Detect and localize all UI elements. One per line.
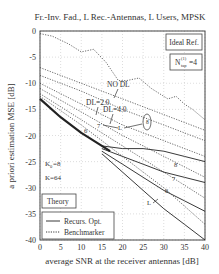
chart-figure: Fr.-Inv. Fad., L Rec.-Antennas, L Users,… <box>0 0 219 274</box>
svg-text:Theory: Theory <box>47 197 69 206</box>
svg-text:25: 25 <box>139 243 147 252</box>
svg-text:-15: -15 <box>25 105 36 114</box>
svg-text:6: 6 <box>84 127 88 134</box>
svg-text:10: 10 <box>77 243 85 252</box>
svg-text:-20: -20 <box>25 132 36 141</box>
chart-title: Fr.-Inv. Fad., L Rec.-Antennas, L Users,… <box>35 12 206 22</box>
ntap-box: N (1) tap =4 <box>170 54 202 70</box>
svg-text:-25: -25 <box>25 158 36 167</box>
k-label: K=64 <box>45 174 62 182</box>
svg-text:0: 0 <box>32 27 36 36</box>
dl4-label: DL=4.0 <box>103 105 127 114</box>
legend: Recurs. Opt. Benchmarker <box>42 212 114 239</box>
svg-text:=4: =4 <box>189 58 197 67</box>
svg-text:L: L <box>147 199 151 206</box>
svg-text:-10: -10 <box>25 79 36 88</box>
svg-text:5: 5 <box>59 243 63 252</box>
svg-text:Ideal Ref.: Ideal Ref. <box>169 38 199 47</box>
svg-text:(1): (1) <box>181 56 187 61</box>
chart-svg: Fr.-Inv. Fad., L Rec.-Antennas, L Users,… <box>0 0 219 274</box>
svg-text:L: L <box>118 124 122 131</box>
ideal-ref-box: Ideal Ref. <box>166 34 202 50</box>
svg-text:35: 35 <box>180 243 188 252</box>
svg-text:-5: -5 <box>29 53 36 62</box>
svg-text:30: 30 <box>160 243 168 252</box>
svg-text:8: 8 <box>174 161 177 168</box>
svg-text:tap: tap <box>181 63 187 68</box>
y-axis-label: a priori estimation MSE [dB] <box>6 83 16 189</box>
legend-dotted-label: Benchmarker <box>64 228 105 237</box>
x-axis-label: average SNR at the receiver antennas [dB… <box>45 256 198 266</box>
svg-text:-35: -35 <box>25 210 36 219</box>
svg-text:=8: =8 <box>53 160 61 168</box>
svg-text:15: 15 <box>98 243 106 252</box>
no-dl-label: NO DL <box>107 80 130 89</box>
svg-text:-40: -40 <box>25 236 36 245</box>
svg-text:40: 40 <box>201 243 209 252</box>
svg-text:20: 20 <box>119 243 127 252</box>
svg-text:7: 7 <box>97 122 101 129</box>
svg-text:0: 0 <box>38 243 42 252</box>
svg-text:7: 7 <box>172 175 176 182</box>
svg-text:8: 8 <box>146 119 149 125</box>
theory-box: Theory <box>42 194 76 208</box>
svg-text:-30: -30 <box>25 184 36 193</box>
legend-solid-label: Recurs. Opt. <box>64 217 102 226</box>
